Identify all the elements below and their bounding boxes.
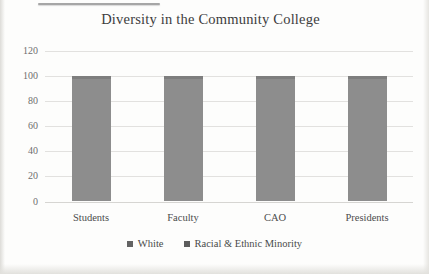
- chart-legend: White Racial & Ethnic Minority: [0, 238, 429, 249]
- bar-cao: [256, 76, 295, 201]
- legend-label-minority: Racial & Ethnic Minority: [195, 238, 303, 249]
- legend-item-white: White: [127, 238, 164, 249]
- x-axis-label-cao: CAO: [230, 211, 320, 224]
- gridline-y-120: [45, 51, 413, 52]
- bar-students: [72, 76, 111, 201]
- x-axis-label-presidents: Presidents: [322, 211, 412, 224]
- scanned-chart-figure: Diversity in the Community College 02040…: [0, 0, 429, 274]
- x-axis-label-faculty: Faculty: [138, 211, 228, 224]
- legend-item-minority: Racial & Ethnic Minority: [184, 238, 303, 249]
- scan-edge-left: [0, 0, 5, 274]
- gridline-y-0: [45, 202, 413, 203]
- y-axis-tick-120: 120: [0, 45, 38, 57]
- scan-artifact-line: [38, 3, 160, 5]
- y-axis-tick-40: 40: [0, 145, 38, 157]
- bar-faculty: [164, 76, 203, 201]
- chart-title: Diversity in the Community College: [0, 11, 421, 28]
- legend-marker-white-icon: [127, 241, 133, 247]
- y-axis-tick-20: 20: [0, 170, 38, 182]
- x-axis-label-students: Students: [46, 211, 136, 224]
- y-axis-tick-80: 80: [0, 95, 38, 107]
- y-axis-tick-60: 60: [0, 120, 38, 132]
- y-axis-tick-0: 0: [0, 196, 38, 208]
- scan-edge-bottom: [0, 264, 429, 274]
- y-axis-tick-100: 100: [0, 70, 38, 82]
- scan-edge-right: [423, 0, 429, 274]
- legend-marker-minority-icon: [184, 241, 190, 247]
- legend-label-white: White: [138, 238, 164, 249]
- bar-presidents: [348, 76, 387, 201]
